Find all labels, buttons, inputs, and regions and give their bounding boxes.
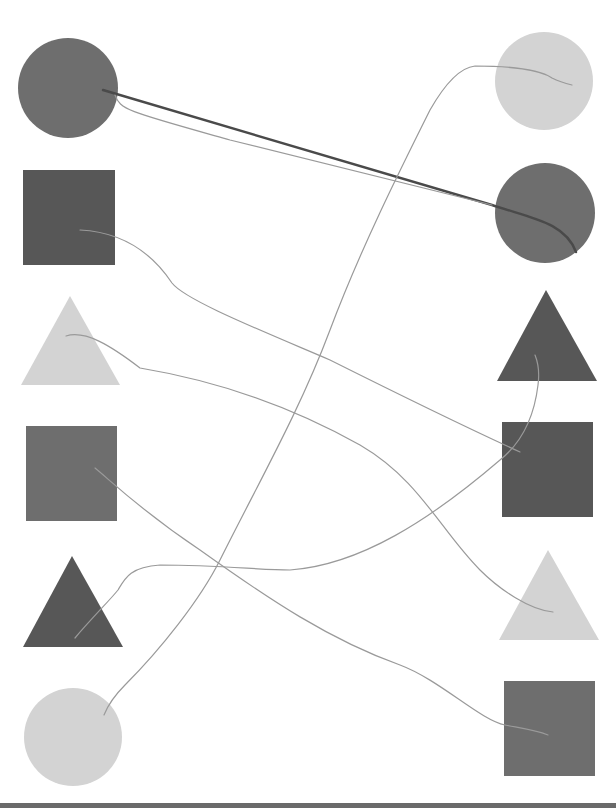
matching-worksheet-canvas <box>0 0 616 808</box>
connection-line-l3-to-r5 <box>66 335 553 612</box>
connection-line-l4-to-r6 <box>95 468 548 735</box>
right-square-6-mid[interactable] <box>504 681 595 776</box>
left-triangle-3-light[interactable] <box>21 296 120 385</box>
connection-lines-layer <box>66 66 576 735</box>
right-circle-1-light[interactable] <box>495 32 593 130</box>
shapes-layer <box>18 32 599 786</box>
connection-line-l5-to-r3 <box>75 355 539 638</box>
right-triangle-5-light[interactable] <box>499 550 599 640</box>
connection-line-l2-to-r4 <box>80 230 520 452</box>
left-square-4-mid[interactable] <box>26 426 117 521</box>
left-circle-1-mid[interactable] <box>18 38 118 138</box>
right-circle-2-mid[interactable] <box>495 163 595 263</box>
left-circle-6-light[interactable] <box>24 688 122 786</box>
scan-bottom-edge <box>0 803 616 808</box>
left-square-2-dark[interactable] <box>23 170 115 265</box>
connection-line-l6-to-r1 <box>104 66 572 715</box>
right-triangle-3-dark[interactable] <box>497 290 597 381</box>
right-square-4-dark[interactable] <box>502 422 593 517</box>
